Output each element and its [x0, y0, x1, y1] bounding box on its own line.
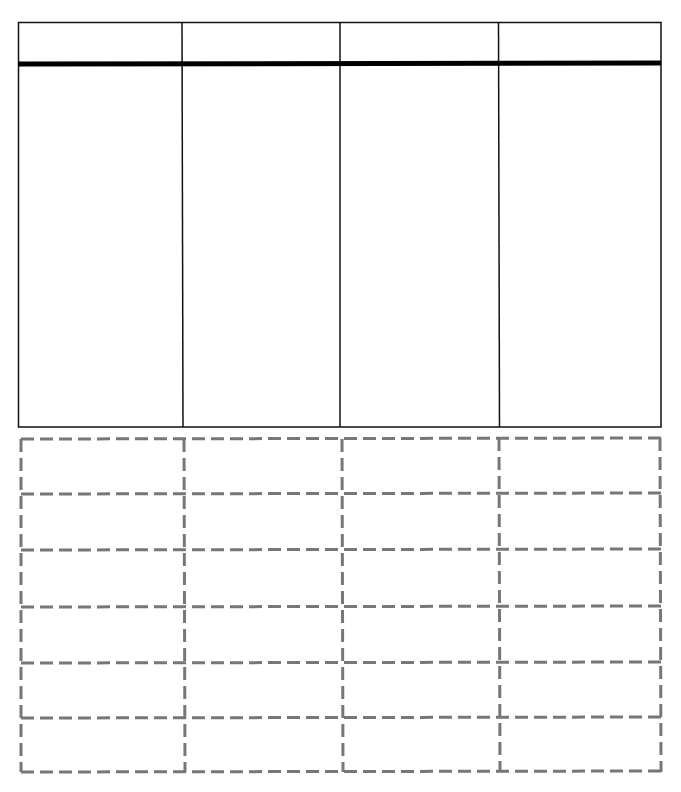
dashed-grid-row-line-2: [21, 549, 661, 550]
dashed-grid-row-line-1: [21, 493, 661, 494]
top-table-col-divider-1: [182, 22, 183, 427]
dashed-grid-row-line-6: [21, 771, 661, 772]
dashed-grid-col-line-2: [342, 439, 343, 772]
worksheet: [0, 0, 681, 792]
top-table-header-rule: [18, 63, 661, 64]
top-table-col-divider-3: [499, 22, 500, 427]
dashed-grid-row-line-5: [21, 717, 661, 718]
dashed-grid-row-line-3: [21, 606, 661, 607]
top-table: [18, 22, 661, 427]
dashed-grid-row-line-0: [21, 438, 661, 439]
dashed-grid: [21, 438, 661, 772]
dashed-grid-row-line-4: [21, 662, 661, 663]
